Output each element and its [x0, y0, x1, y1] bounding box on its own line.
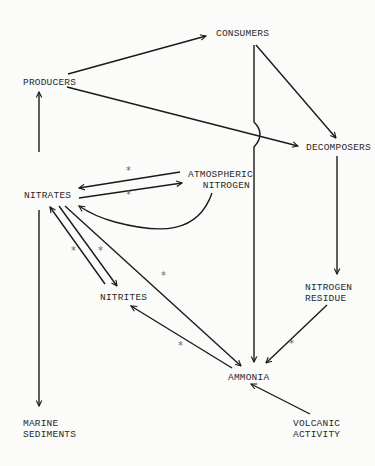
- edge-consumers-ammonia: [254, 45, 260, 362]
- edge-ammonia-nitrites: [131, 306, 232, 368]
- marker-star: *: [126, 165, 131, 176]
- marker-star: *: [71, 245, 76, 256]
- marine-line2: SEDIMENTS: [23, 429, 76, 440]
- edge-volcanic-ammonia: [251, 384, 310, 414]
- marker-star: *: [98, 245, 103, 256]
- residue-line2: RESIDUE: [305, 293, 346, 304]
- node-consumers: CONSUMERS: [216, 28, 269, 39]
- marine-line1: MARINE: [23, 418, 58, 429]
- node-nitrogen-residue: NITROGEN RESIDUE: [305, 282, 352, 304]
- node-nitrites: NITRITES: [100, 292, 147, 303]
- diagram-canvas: [0, 0, 375, 466]
- marker-star: *: [178, 340, 183, 351]
- node-atmospheric-nitrogen: ATMOSPHERIC NITROGEN: [188, 169, 253, 191]
- atmospheric-line2: NITROGEN: [203, 180, 250, 191]
- node-decomposers: DECOMPOSERS: [306, 142, 371, 153]
- residue-line1: NITROGEN: [305, 282, 352, 293]
- marker-star: *: [161, 270, 166, 281]
- node-marine-sediments: MARINE SEDIMENTS: [23, 418, 76, 440]
- edge-nitrates-ammonia: [65, 206, 241, 366]
- node-nitrates: NITRATES: [24, 190, 71, 201]
- volcanic-line1: VOLCANIC: [293, 418, 340, 429]
- atmospheric-line1: ATMOSPHERIC: [188, 169, 253, 180]
- volcanic-line2: ACTIVITY: [293, 429, 340, 440]
- edge-atmospheric-nitrates-curved: [79, 193, 212, 229]
- node-ammonia: AMMONIA: [228, 372, 269, 383]
- edge-consumers-decomposers: [256, 45, 336, 138]
- marker-star: *: [126, 189, 131, 200]
- node-producers: PRODUCERS: [23, 77, 76, 88]
- edge-residue-ammonia: [266, 305, 327, 363]
- edge-nitrites-nitrates: [50, 207, 105, 284]
- marker-star: *: [289, 338, 294, 349]
- node-volcanic-activity: VOLCANIC ACTIVITY: [293, 418, 340, 440]
- edge-producers-consumers: [68, 36, 206, 74]
- edge-producers-decomposers: [67, 87, 298, 146]
